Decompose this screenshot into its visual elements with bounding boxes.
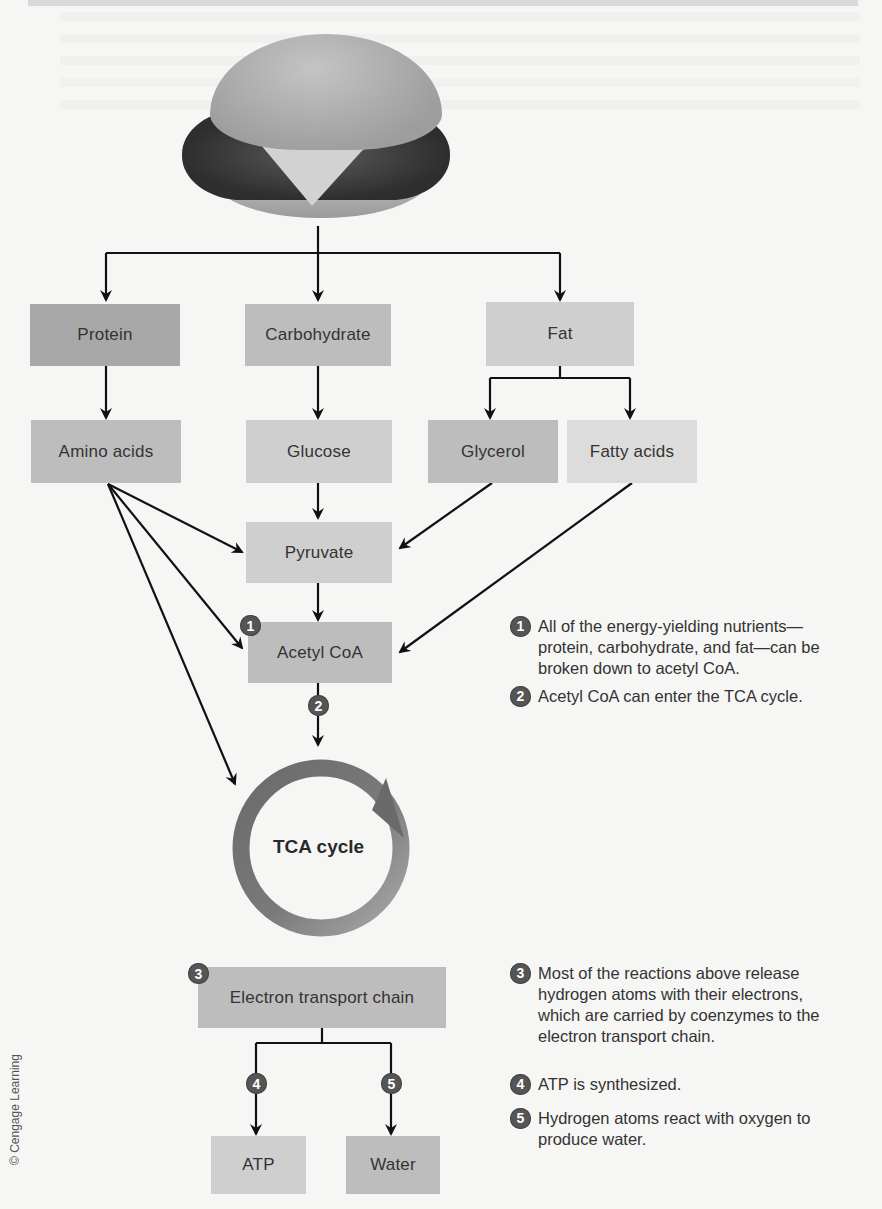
note-5: 5 Hydrogen atoms react with oxygen to pr… xyxy=(510,1108,830,1150)
note-badge-4: 4 xyxy=(510,1074,531,1095)
top-bun xyxy=(210,34,442,150)
note-1: 1 All of the energy-yielding nutrients—p… xyxy=(510,616,850,679)
note-2: 2 Acetyl CoA can enter the TCA cycle. xyxy=(510,686,870,707)
step-badge-4: 4 xyxy=(246,1073,267,1094)
protein-box: Protein xyxy=(30,304,180,366)
note-text-3: Most of the reactions above release hydr… xyxy=(538,963,840,1047)
note-badge-5: 5 xyxy=(510,1108,531,1129)
glycerol-box: Glycerol xyxy=(428,420,558,483)
note-badge-2: 2 xyxy=(510,686,531,707)
atp-box: ATP xyxy=(211,1136,306,1194)
water-box: Water xyxy=(346,1136,440,1194)
note-text-1: All of the energy-yielding nutrients—pro… xyxy=(538,616,850,679)
note-badge-3: 3 xyxy=(510,963,531,984)
note-3: 3 Most of the reactions above release hy… xyxy=(510,963,840,1047)
acetyl-coa-box: Acetyl CoA xyxy=(248,622,392,683)
cheeseburger-image xyxy=(182,34,454,224)
glucose-box: Glucose xyxy=(246,420,392,483)
copyright-credit: © Cengage Learning xyxy=(8,1054,22,1165)
note-text-2: Acetyl CoA can enter the TCA cycle. xyxy=(538,686,870,707)
fat-box: Fat xyxy=(486,302,634,366)
step-badge-2: 2 xyxy=(308,695,329,716)
pyruvate-box: Pyruvate xyxy=(246,522,392,583)
step-badge-5: 5 xyxy=(381,1073,402,1094)
step-badge-3: 3 xyxy=(188,963,209,984)
note-text-4: ATP is synthesized. xyxy=(538,1074,840,1095)
fatty-acids-box: Fatty acids xyxy=(567,420,697,483)
carbohydrate-box: Carbohydrate xyxy=(245,304,391,366)
note-badge-1: 1 xyxy=(510,616,531,637)
amino-acids-box: Amino acids xyxy=(31,420,181,483)
note-text-5: Hydrogen atoms react with oxygen to prod… xyxy=(538,1108,830,1150)
tca-cycle-label: TCA cycle xyxy=(273,836,364,858)
electron-transport-chain-box: Electron transport chain xyxy=(198,967,446,1028)
note-4: 4 ATP is synthesized. xyxy=(510,1074,840,1095)
step-badge-1: 1 xyxy=(240,615,261,636)
